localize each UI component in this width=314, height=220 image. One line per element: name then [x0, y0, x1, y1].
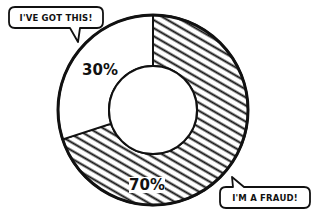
slice-label-30: 30%: [82, 61, 118, 79]
speech-bubble-ive-got-this: I'VE GOT THIS!: [9, 7, 103, 42]
slice-label-70: 70%: [129, 176, 165, 194]
bubble-text: I'VE GOT THIS!: [20, 13, 93, 23]
bubble-text: I'M A FRAUD!: [232, 193, 298, 203]
speech-bubble-im-a-fraud: I'M A FRAUD!: [220, 177, 310, 208]
inner-hole: [109, 66, 197, 154]
donut-chart: 70%30% I'VE GOT THIS! I'M A FRAUD!: [0, 0, 314, 220]
